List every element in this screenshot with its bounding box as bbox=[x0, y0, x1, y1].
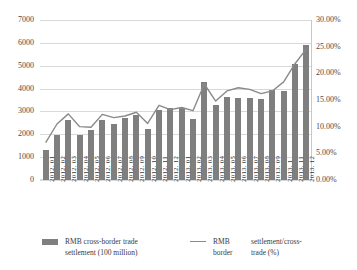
y-axis-left-tick: 2000 bbox=[18, 130, 34, 138]
x-axis-tick: 2013. 04 bbox=[219, 156, 226, 182]
legend-label-line: RMB border settlement/cross- trade (%) bbox=[213, 236, 302, 258]
y-axis-right-tick: 20.00% bbox=[316, 69, 341, 77]
legend-label-line-col1-line2: border bbox=[213, 247, 251, 258]
x-axis-tick: 2012. 01 bbox=[49, 156, 56, 182]
y-axis-right-tick: 10.00% bbox=[316, 123, 341, 131]
legend-item-line: RMB border settlement/cross- trade (%) bbox=[190, 236, 302, 258]
y-axis-right-tick: 15.00% bbox=[316, 96, 341, 104]
legend-label-bar-line1: RMB cross-border trade bbox=[65, 236, 138, 247]
x-axis-tick: 2012. 03 bbox=[71, 156, 78, 182]
y-axis-left-tick: 0 bbox=[30, 176, 34, 184]
legend-label-line-col2-line2: trade (%) bbox=[251, 247, 302, 258]
x-axis-tick: 2012. 06 bbox=[105, 156, 112, 182]
x-axis-tick: 2013. 01 bbox=[185, 156, 192, 182]
x-axis-tick: 2013. 1 bbox=[287, 160, 294, 182]
y-axis-left-tick: 4000 bbox=[18, 85, 34, 93]
x-axis-tick: 2013. 07 bbox=[253, 156, 260, 182]
y-axis-left-tick: 3000 bbox=[18, 107, 34, 115]
x-axis-tick: 2012. 09 bbox=[139, 156, 146, 182]
x-axis-tick: 2012. 08 bbox=[128, 156, 135, 182]
y-axis-right-tick: 5.00% bbox=[316, 149, 337, 157]
legend-label-bar: RMB cross-border trade settlement (100 m… bbox=[65, 236, 138, 258]
y-axis-right-tick: 30.00% bbox=[316, 16, 341, 24]
x-axis-tick: 2013. 11 bbox=[298, 156, 305, 182]
y-axis-right-tick: 0.00% bbox=[316, 176, 337, 184]
x-axis-tick: 2012. 04 bbox=[83, 156, 90, 182]
x-axis-tick: 2012. 07 bbox=[117, 156, 124, 182]
legend-swatch-bar-icon bbox=[42, 239, 58, 245]
legend-label-line-col2-line1: settlement/cross- bbox=[251, 236, 302, 247]
x-axis-tick: 2013. 08 bbox=[264, 156, 271, 182]
legend-label-line-col1-line1: RMB bbox=[213, 236, 251, 247]
x-axis-tick: 2012. 10 bbox=[151, 156, 158, 182]
y-axis-left-tick: 1000 bbox=[18, 153, 34, 161]
legend-item-bar: RMB cross-border trade settlement (100 m… bbox=[42, 236, 138, 258]
y-axis-left-tick: 6000 bbox=[18, 39, 34, 47]
x-axis-tick: 2012. 02 bbox=[60, 156, 67, 182]
line-path bbox=[46, 49, 307, 143]
y-axis-left-tick: 7000 bbox=[18, 16, 34, 24]
x-axis-tick: 2013. 05 bbox=[230, 156, 237, 182]
x-axis-labels: 2012. 012012. 022012. 032012. 042012. 05… bbox=[40, 182, 312, 240]
x-axis-tick: 2012. 12 bbox=[173, 156, 180, 182]
x-axis-tick: 2012. 11 bbox=[162, 156, 169, 182]
x-axis-tick: 2013. 02 bbox=[196, 156, 203, 182]
x-axis-tick: 2013. 03 bbox=[207, 156, 214, 182]
chart-legend: RMB cross-border trade settlement (100 m… bbox=[0, 234, 357, 268]
legend-swatch-line-icon bbox=[190, 241, 206, 242]
legend-label-bar-line2: settlement (100 million) bbox=[65, 247, 138, 258]
y-axis-left-tick: 5000 bbox=[18, 62, 34, 70]
x-axis-tick: 2013. 12 bbox=[309, 156, 316, 182]
x-axis-tick: 2013. 09 bbox=[275, 156, 282, 182]
y-axis-right-tick: 25.00% bbox=[316, 43, 341, 51]
x-axis-tick: 2012. 05 bbox=[94, 156, 101, 182]
x-axis-tick: 2013. 06 bbox=[241, 156, 248, 182]
chart-container: 01000200030004000500060007000 0.00%5.00%… bbox=[0, 0, 357, 270]
